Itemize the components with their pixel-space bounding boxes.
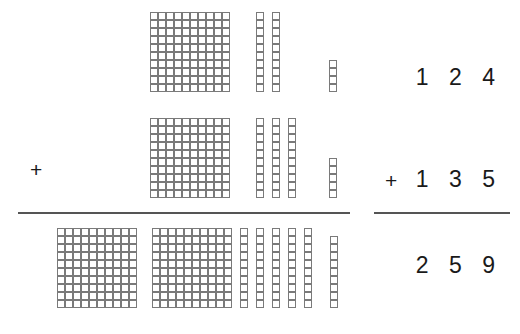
unit-cube	[57, 292, 65, 300]
unit-cube	[73, 252, 81, 260]
unit-cube	[105, 236, 113, 244]
unit-cube	[272, 68, 280, 76]
tens-rod	[304, 228, 312, 308]
unit-cube	[150, 12, 158, 20]
unit-cube	[168, 244, 176, 252]
unit-cube	[224, 252, 232, 260]
unit-cube	[329, 190, 337, 198]
unit-cube	[222, 20, 230, 28]
unit-cube	[200, 292, 208, 300]
unit-cube	[330, 236, 338, 244]
unit-cube	[256, 84, 264, 92]
unit-cube	[304, 276, 312, 284]
unit-cube	[150, 68, 158, 76]
hundreds-flat	[150, 12, 230, 92]
unit-cube	[216, 268, 224, 276]
unit-cube	[174, 84, 182, 92]
unit-cube	[200, 284, 208, 292]
unit-cube	[272, 174, 280, 182]
unit-cube	[288, 292, 296, 300]
unit-cube	[224, 276, 232, 284]
unit-cube	[129, 268, 137, 276]
unit-cube	[272, 76, 280, 84]
unit-cube	[304, 268, 312, 276]
unit-cube	[272, 142, 280, 150]
tens-rod	[256, 228, 264, 308]
unit-cube	[192, 300, 200, 308]
unit-cube	[73, 228, 81, 236]
unit-cube	[256, 252, 264, 260]
unit-cube	[150, 142, 158, 150]
unit-cube	[65, 244, 73, 252]
unit-cube	[152, 260, 160, 268]
unit-cube	[73, 300, 81, 308]
unit-cube	[198, 60, 206, 68]
unit-cube	[222, 182, 230, 190]
unit-cube	[182, 166, 190, 174]
unit-cube	[206, 166, 214, 174]
unit-cube	[73, 292, 81, 300]
unit-cube	[182, 126, 190, 134]
unit-cube	[57, 268, 65, 276]
unit-cube	[304, 292, 312, 300]
unit-cube	[158, 142, 166, 150]
unit-cube	[174, 20, 182, 28]
unit-cube	[214, 60, 222, 68]
unit-cube	[121, 300, 129, 308]
unit-cube	[288, 244, 296, 252]
unit-cube	[216, 228, 224, 236]
unit-cube	[182, 12, 190, 20]
unit-cube	[176, 228, 184, 236]
unit-cube	[168, 252, 176, 260]
unit-cube	[256, 118, 264, 126]
unit-cube	[166, 182, 174, 190]
unit-cube	[73, 260, 81, 268]
unit-cube	[113, 276, 121, 284]
unit-cube	[89, 228, 97, 236]
unit-cube	[160, 260, 168, 268]
unit-cube	[182, 68, 190, 76]
unit-cube	[81, 268, 89, 276]
unit-cube	[216, 244, 224, 252]
unit-cube	[329, 182, 337, 190]
unit-cube	[166, 52, 174, 60]
unit-cube	[89, 268, 97, 276]
unit-cube	[152, 244, 160, 252]
unit-cube	[158, 134, 166, 142]
unit-cube	[190, 12, 198, 20]
unit-cube	[222, 28, 230, 36]
unit-cube	[272, 268, 280, 276]
unit-cube	[272, 276, 280, 284]
unit-cube	[200, 260, 208, 268]
unit-cube	[208, 268, 216, 276]
unit-cube	[81, 236, 89, 244]
unit-cube	[190, 158, 198, 166]
ones-column	[329, 158, 337, 198]
unit-cube	[329, 68, 337, 76]
unit-cube	[206, 36, 214, 44]
unit-cube	[166, 84, 174, 92]
unit-cube	[206, 84, 214, 92]
unit-cube	[166, 118, 174, 126]
unit-cube	[182, 60, 190, 68]
unit-cube	[272, 158, 280, 166]
unit-cube	[184, 252, 192, 260]
unit-cube	[150, 166, 158, 174]
unit-cube	[190, 52, 198, 60]
unit-cube	[81, 228, 89, 236]
unit-cube	[73, 244, 81, 252]
unit-cube	[214, 118, 222, 126]
unit-cube	[174, 12, 182, 20]
unit-cube	[97, 292, 105, 300]
unit-cube	[198, 166, 206, 174]
unit-cube	[288, 158, 296, 166]
unit-cube	[190, 182, 198, 190]
unit-cube	[192, 284, 200, 292]
unit-cube	[73, 284, 81, 292]
unit-cube	[222, 44, 230, 52]
unit-cube	[150, 134, 158, 142]
unit-cube	[158, 126, 166, 134]
unit-cube	[198, 134, 206, 142]
unit-cube	[214, 84, 222, 92]
unit-cube	[272, 84, 280, 92]
